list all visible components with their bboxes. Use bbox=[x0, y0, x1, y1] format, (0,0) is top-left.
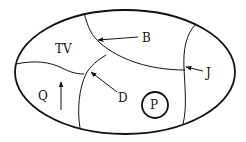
boundary-d bbox=[79, 55, 106, 128]
label-p: P bbox=[150, 98, 158, 112]
label-d: D bbox=[118, 91, 128, 105]
arrow-j bbox=[186, 67, 203, 71]
outer-boundary bbox=[15, 10, 235, 134]
boundary-j bbox=[183, 24, 196, 124]
region-diagram: TV B J D Q P bbox=[0, 0, 246, 142]
label-b: B bbox=[142, 31, 151, 45]
arrow-d bbox=[91, 72, 117, 92]
label-q: Q bbox=[38, 89, 48, 103]
label-j: J bbox=[204, 66, 211, 80]
label-tv: TV bbox=[55, 42, 72, 56]
boundary-left bbox=[16, 62, 84, 74]
boundary-b bbox=[84, 13, 185, 70]
arrow-b bbox=[98, 37, 138, 40]
